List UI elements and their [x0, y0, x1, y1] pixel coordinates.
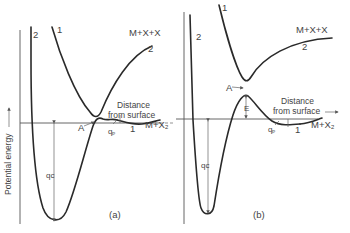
qp-label: qₚ [108, 127, 115, 136]
crossing-label: A [78, 122, 85, 133]
curve-2-label-right: 2 [302, 41, 307, 52]
crossing-label: A [226, 82, 233, 93]
panel-caption: (a) [109, 209, 121, 220]
curve-2-label-left: 2 [33, 29, 38, 40]
curve-1-upper [219, 5, 332, 81]
curve-2-label-left: 2 [196, 31, 201, 42]
curve-1-label-right: 1 [295, 124, 300, 135]
x-axis-label-line2: from surface [273, 106, 321, 116]
curve-1-label-right: 1 [130, 123, 135, 134]
panel-a: 2 1 M+X+X 2 Distance from surface A qₚ 1… [20, 24, 175, 224]
qc-label: qᴄ [201, 161, 209, 170]
asymptote-upper-label: M+X+X [296, 24, 328, 35]
qc-label: qᴄ [46, 171, 54, 180]
y-axis-label: Potential energy [3, 133, 13, 195]
qp-label: qₚ [268, 125, 275, 134]
asymptote-upper-label: M+X+X [129, 27, 161, 38]
activation-label: E [244, 104, 249, 113]
asymptote-lower-label: M+X₂ [145, 119, 169, 130]
x-axis-label-line1: Distance [117, 100, 150, 110]
panel-b: 2 1 M+X+X 2 A E Distance from surface qₚ… [176, 2, 338, 224]
curve-2-label-right: 2 [148, 43, 153, 54]
panel-caption: (b) [253, 209, 265, 220]
asymptote-lower-label: M+X₂ [311, 119, 335, 130]
potential-energy-diagram: 2 1 M+X+X 2 Distance from surface A qₚ 1… [0, 0, 350, 233]
curve-1-label-top: 1 [222, 2, 227, 13]
curve-1-label-top: 1 [57, 24, 62, 35]
crossing-arrow [232, 87, 243, 88]
x-axis-label-line1: Distance [281, 96, 314, 106]
